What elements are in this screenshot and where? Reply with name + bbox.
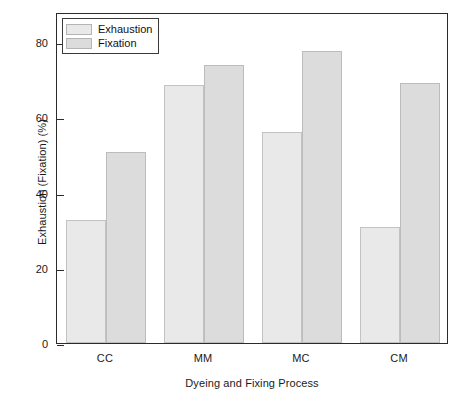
bar-mc-fixation: [302, 51, 342, 343]
y-axis-tick: [57, 195, 64, 196]
y-axis-tick-label: 60: [8, 112, 48, 124]
bar-mc-exhaustion: [262, 132, 302, 343]
bar-mm-fixation: [204, 65, 244, 343]
x-axis-label-cc: CC: [65, 352, 145, 364]
y-axis-tick-label: 40: [8, 188, 48, 200]
legend-swatch-exhaustion: [66, 24, 92, 35]
legend: Exhaustion Fixation: [62, 18, 159, 54]
y-axis-tick: [57, 345, 64, 346]
x-axis-label-mm: MM: [163, 352, 243, 364]
y-axis-tick: [57, 119, 64, 120]
legend-item-exhaustion: Exhaustion: [66, 22, 152, 36]
legend-label-exhaustion: Exhaustion: [98, 23, 152, 35]
x-axis-label-mc: MC: [261, 352, 341, 364]
bar-mm-exhaustion: [164, 85, 204, 343]
bar-cm-fixation: [400, 83, 440, 343]
y-axis-tick-label: 80: [8, 37, 48, 49]
plot-area: [56, 13, 448, 344]
legend-label-fixation: Fixation: [98, 37, 137, 49]
bar-cc-exhaustion: [66, 220, 106, 343]
y-axis-tick-label: 0: [8, 338, 48, 350]
bar-cc-fixation: [106, 152, 146, 343]
y-axis-tick-label: 20: [8, 263, 48, 275]
x-axis-label-cm: CM: [359, 352, 439, 364]
legend-item-fixation: Fixation: [66, 36, 152, 50]
plot-inner: [57, 14, 447, 343]
legend-swatch-fixation: [66, 38, 92, 49]
bar-cm-exhaustion: [360, 227, 400, 343]
bar-chart: Exhaustion (Fixation) (%) 020406080 CCMM…: [0, 0, 465, 402]
y-axis-tick: [57, 270, 64, 271]
x-axis-title: Dyeing and Fixing Process: [56, 377, 448, 389]
